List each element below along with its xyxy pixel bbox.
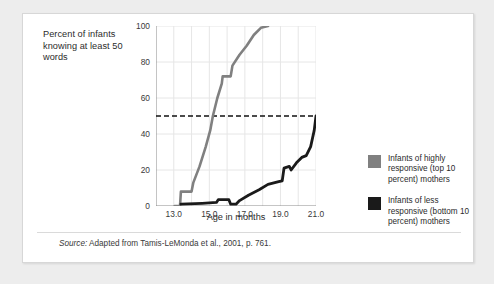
x-axis-title: Age in months [156,212,316,222]
plot-wrapper: 020406080100 13.015.017.019.021.0 [127,26,323,226]
y-tick-label: 100 [136,21,150,31]
legend-item-label: Infants of highly responsive (top 10 per… [388,154,476,185]
plot-area [156,26,316,206]
y-tick-label: 0 [145,201,150,211]
figure-page: Percent of infants knowing at least 50 w… [0,0,494,284]
legend-item-label: Infants of less responsive (bottom 10 pe… [388,196,476,227]
legend-swatch-less-responsive [368,197,381,210]
y-axis-tick-labels: 020406080100 [127,26,153,206]
y-tick-label: 80 [141,57,150,67]
source-text: Adapted from Tamis-LeMonda et al., 2001,… [87,239,271,248]
y-tick-label: 40 [141,129,150,139]
legend: Infants of highly responsive (top 10 per… [368,154,476,238]
legend-item: Infants of highly responsive (top 10 per… [368,154,476,185]
source-note: Source: Adapted from Tamis-LeMonda et al… [59,239,271,248]
source-divider [37,232,461,233]
chart-svg [156,26,316,206]
legend-swatch-highly-responsive [368,155,381,168]
legend-item: Infants of less responsive (bottom 10 pe… [368,196,476,227]
figure-card: Percent of infants knowing at least 50 w… [22,13,474,263]
y-tick-label: 60 [141,93,150,103]
source-lead: Source: [59,239,87,248]
y-tick-label: 20 [141,165,150,175]
